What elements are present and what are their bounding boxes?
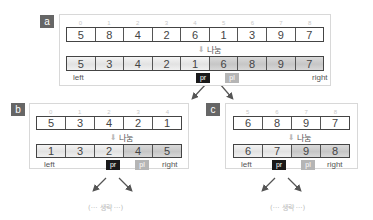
array-cell: 2 (95, 145, 124, 157)
index-label: 0 (66, 20, 95, 26)
down-arrow-icon: ⬇ (198, 45, 205, 54)
panel-c-array-before: 6 8 9 7 (233, 116, 350, 130)
divide-label: 나눔 (119, 132, 133, 143)
index-label: 5 (209, 20, 238, 26)
array-cell: 3 (66, 145, 95, 157)
panel-c-tag: c (206, 103, 220, 116)
index-label: 8 (295, 20, 324, 26)
right-label: right (312, 73, 328, 82)
array-cell: 8 (238, 57, 267, 70)
array-cell: 2 (153, 28, 182, 41)
pr-marker: pr (272, 160, 286, 170)
left-label: left (73, 73, 84, 82)
array-cell: 5 (37, 117, 66, 129)
array-cell: 3 (96, 57, 125, 70)
pl-marker: pl (301, 160, 315, 170)
divide-label: 나눔 (207, 44, 221, 55)
array-cell: 5 (67, 57, 96, 70)
index-label: 7 (267, 20, 296, 26)
down-arrow-icon: ⬇ (110, 133, 117, 142)
array-cell: 8 (96, 28, 125, 41)
array-cell: 3 (238, 28, 267, 41)
array-cell: 8 (321, 145, 349, 157)
pl-marker: pl (225, 73, 239, 83)
pl-marker: pl (135, 160, 149, 170)
pr-marker: pr (106, 160, 120, 170)
index-label: 2 (94, 109, 123, 115)
panel-b-indices: 0 1 2 3 4 (36, 109, 182, 115)
index-label: 7 (292, 109, 321, 115)
index-label: 6 (262, 109, 291, 115)
array-cell: 4 (95, 117, 124, 129)
panel-a-array-before: 5 8 4 2 6 1 3 9 7 (66, 27, 324, 42)
panel-a-divide: ⬇ 나눔 (198, 44, 221, 55)
array-cell: 4 (124, 57, 153, 70)
array-cell: 1 (210, 28, 239, 41)
array-cell: 7 (296, 57, 324, 70)
index-label: 6 (238, 20, 267, 26)
panel-c-divide: ⬇ 나눔 (288, 132, 311, 143)
index-label: 1 (95, 20, 124, 26)
array-cell: 4 (124, 28, 153, 41)
array-cell: 8 (263, 117, 292, 129)
omitted-note: (··· 생략 ···) (88, 202, 123, 212)
index-label: 4 (153, 109, 182, 115)
down-arrow-icon: ⬇ (288, 133, 295, 142)
array-cell: 5 (67, 28, 96, 41)
array-cell: 2 (124, 117, 153, 129)
panel-c-indices: 5 6 7 8 (233, 109, 350, 115)
array-cell: 7 (263, 145, 292, 157)
panel-a-tag: a (40, 15, 54, 28)
index-label: 0 (36, 109, 65, 115)
index-label: 4 (181, 20, 210, 26)
index-label: 2 (123, 20, 152, 26)
array-cell: 7 (321, 117, 349, 129)
panel-a-indices: 0 1 2 3 4 5 6 7 8 (66, 20, 324, 26)
array-cell: 4 (124, 145, 153, 157)
left-label: left (44, 160, 55, 169)
index-label: 1 (65, 109, 94, 115)
array-cell: 3 (66, 117, 95, 129)
array-cell: 1 (37, 145, 66, 157)
panel-b-tag: b (11, 103, 25, 116)
array-cell: 9 (292, 117, 321, 129)
right-label: right (162, 160, 178, 169)
pr-marker: pr (196, 73, 210, 83)
array-cell: 7 (296, 28, 324, 41)
array-cell: 6 (234, 145, 263, 157)
panel-b-array-before: 5 3 4 2 1 (36, 116, 182, 130)
panel-a-array-after: 5 3 4 2 1 6 8 9 7 (66, 56, 324, 71)
array-cell: 9 (267, 28, 296, 41)
left-label: left (241, 160, 252, 169)
index-label: 3 (124, 109, 153, 115)
array-cell: 2 (153, 57, 182, 70)
panel-b-divide: ⬇ 나눔 (110, 132, 133, 143)
array-cell: 6 (210, 57, 239, 70)
array-cell: 5 (153, 145, 181, 157)
panel-c-array-after: 6 7 9 8 (233, 144, 350, 158)
array-cell: 9 (267, 57, 296, 70)
array-cell: 6 (181, 28, 210, 41)
panel-b-array-after: 1 3 2 4 5 (36, 144, 182, 158)
omitted-note: (··· 생략 ···) (270, 202, 305, 212)
array-cell: 1 (153, 117, 181, 129)
index-label: 5 (233, 109, 262, 115)
right-label: right (327, 160, 343, 169)
array-cell: 1 (181, 57, 210, 70)
array-cell: 6 (234, 117, 263, 129)
index-label: 3 (152, 20, 181, 26)
array-cell: 9 (292, 145, 321, 157)
divide-label: 나눔 (297, 132, 311, 143)
index-label: 8 (321, 109, 350, 115)
